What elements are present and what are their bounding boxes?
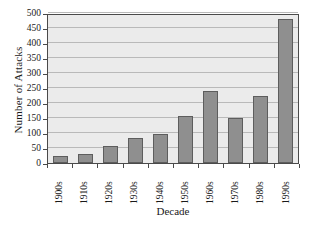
bar-1950s[interactable] — [178, 116, 193, 163]
x-tick-mark-10 — [299, 164, 300, 168]
y-tick-label: 250 — [27, 83, 41, 93]
x-label-slot-1970s: 1970s — [223, 170, 248, 204]
bar-1930s[interactable] — [128, 138, 143, 163]
x-tick-mark-3 — [123, 164, 124, 168]
x-tick-mark-8 — [249, 164, 250, 168]
bar-slot-1950s — [173, 15, 198, 163]
bar-slot-1940s — [148, 15, 173, 163]
bar-slot-1910s — [73, 15, 98, 163]
x-tick-label-1950s: 1950s — [181, 170, 191, 204]
x-tick-mark-2 — [97, 164, 98, 168]
x-tick-label-1980s: 1980s — [256, 170, 266, 204]
x-tick-mark-5 — [173, 164, 174, 168]
bar-1910s[interactable] — [78, 154, 93, 163]
x-tick-mark-1 — [72, 164, 73, 168]
y-tick-label: 400 — [27, 38, 41, 48]
x-tick-label-1910s: 1910s — [80, 170, 90, 204]
bar-slot-1900s — [48, 15, 73, 163]
x-label-slot-1900s: 1900s — [47, 170, 72, 204]
x-label-slot-1960s: 1960s — [198, 170, 223, 204]
x-label-slot-1940s: 1940s — [148, 170, 173, 204]
x-tick-mark-7 — [223, 164, 224, 168]
y-tick-label: 300 — [27, 68, 41, 78]
x-label-slot-1930s: 1930s — [123, 170, 148, 204]
y-tick-label: 350 — [27, 53, 41, 63]
bar-slot-1980s — [248, 15, 273, 163]
x-label-slot-1920s: 1920s — [97, 170, 122, 204]
bar-series — [48, 15, 298, 163]
x-tick-label-1960s: 1960s — [206, 170, 216, 204]
y-tick-label: 100 — [27, 128, 41, 138]
x-label-slot-1990s: 1990s — [274, 170, 299, 204]
bar-1900s[interactable] — [53, 156, 68, 164]
bar-1960s[interactable] — [203, 91, 218, 163]
bar-1920s[interactable] — [103, 146, 118, 163]
x-tick-label-1970s: 1970s — [231, 170, 241, 204]
y-tick-label: 200 — [27, 98, 41, 108]
bar-1990s[interactable] — [278, 19, 293, 163]
x-axis-title: Decade — [47, 205, 299, 217]
bar-slot-1990s — [273, 15, 298, 163]
x-axis-label-group: 1900s1910s1920s1930s1940s1950s1960s1970s… — [47, 170, 299, 204]
x-tick-mark-6 — [198, 164, 199, 168]
y-tick-label: 450 — [27, 23, 41, 33]
bar-1970s[interactable] — [228, 118, 243, 163]
bar-slot-1960s — [198, 15, 223, 163]
bar-1940s[interactable] — [153, 134, 168, 163]
bar-slot-1930s — [123, 15, 148, 163]
y-tick-label: 50 — [32, 143, 42, 153]
x-tick-mark-9 — [274, 164, 275, 168]
x-tick-mark-0 — [47, 164, 48, 168]
x-tick-label-1940s: 1940s — [156, 170, 166, 204]
x-label-slot-1950s: 1950s — [173, 170, 198, 204]
y-tick-label: 0 — [36, 158, 41, 168]
y-tick-label: 150 — [27, 113, 41, 123]
x-tick-label-1900s: 1900s — [55, 170, 65, 204]
x-tick-label-1930s: 1930s — [130, 170, 140, 204]
x-tick-mark-4 — [148, 164, 149, 168]
y-axis-tick-group: 050100150200250300350400450500 — [0, 14, 47, 164]
x-tick-label-1990s: 1990s — [282, 170, 292, 204]
x-tick-label-1920s: 1920s — [105, 170, 115, 204]
x-label-slot-1980s: 1980s — [249, 170, 274, 204]
y-tick-label: 500 — [27, 8, 41, 18]
bar-1980s[interactable] — [253, 96, 268, 163]
x-label-slot-1910s: 1910s — [72, 170, 97, 204]
bar-slot-1970s — [223, 15, 248, 163]
bar-chart: Number of Attacks 0501001502002503003504… — [0, 0, 315, 225]
bar-slot-1920s — [98, 15, 123, 163]
gridline-500 — [48, 12, 298, 13]
plot-area — [47, 14, 299, 164]
